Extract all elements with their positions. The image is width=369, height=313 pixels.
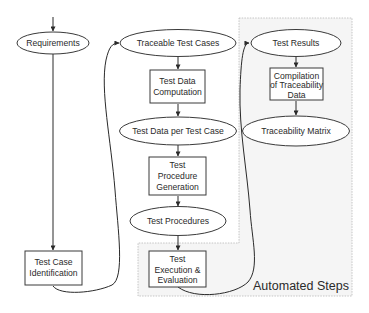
node-label: Evaluation [157, 275, 197, 285]
node-traceability-matrix: Traceability Matrix [243, 116, 350, 146]
node-label: Test Procedures [147, 216, 209, 226]
node-label: Test [170, 160, 186, 170]
node-label: Data [287, 90, 305, 100]
node-compilation-traceability-data: Compilation of Traceability Data [270, 68, 324, 100]
node-label: Traceability Matrix [261, 126, 331, 136]
node-test-results: Test Results [251, 30, 341, 57]
node-label: Generation [156, 182, 199, 192]
node-label: Compilation [274, 71, 320, 81]
node-traceable-test-cases: Traceable Test Cases [120, 30, 236, 57]
node-label: Requirements [26, 38, 80, 48]
node-label: Test [170, 254, 186, 264]
node-label: Computation [153, 87, 202, 97]
node-label: of Traceability [270, 80, 324, 90]
node-label: Identification [29, 268, 77, 278]
node-label: Test Case [34, 257, 72, 267]
traceability-flowchart: Automated Steps Requirements Test Case I… [0, 0, 369, 313]
node-test-data-per-test-case: Test Data per Test Case [120, 117, 237, 145]
node-test-procedure-generation: Test Procedure Generation [149, 157, 206, 195]
node-test-data-computation: Test Data Computation [150, 70, 205, 103]
node-label: Execution & [155, 265, 201, 275]
node-requirements: Requirements [17, 32, 89, 54]
automated-steps-label: Automated Steps [253, 279, 349, 293]
node-test-case-identification: Test Case Identification [25, 251, 82, 285]
node-label: Procedure [158, 171, 198, 181]
node-label: Test Data per Test Case [132, 126, 224, 136]
node-label: Test Results [273, 38, 320, 48]
node-test-procedures: Test Procedures [130, 207, 226, 236]
node-test-execution-evaluation: Test Execution & Evaluation [149, 251, 206, 287]
node-label: Traceable Test Cases [137, 38, 220, 48]
node-label: Test Data [159, 76, 196, 86]
